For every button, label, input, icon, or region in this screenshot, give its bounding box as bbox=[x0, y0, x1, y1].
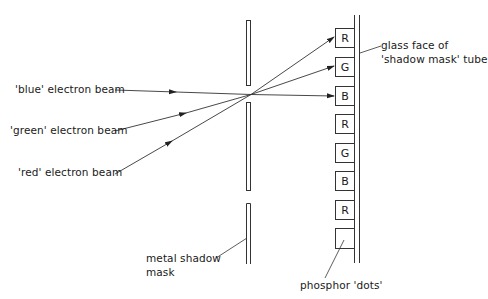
mask-bar-bottom bbox=[247, 204, 251, 265]
blue-beam-label: 'blue' electron beam bbox=[15, 83, 125, 96]
green-beam-label: 'green' electron beam bbox=[10, 124, 128, 137]
phosphor-letter: R bbox=[341, 32, 349, 45]
glass-leader bbox=[360, 46, 381, 53]
shadow-mask bbox=[247, 21, 251, 265]
phosphor-letter: B bbox=[341, 90, 349, 103]
phosphor-letter: G bbox=[341, 147, 350, 160]
red-beam-label: 'red' electron beam bbox=[18, 166, 122, 179]
glass-face-label-2: 'shadow mask' tube bbox=[381, 53, 488, 66]
leader-lines bbox=[216, 46, 381, 278]
phosphor-letter: B bbox=[341, 175, 349, 188]
phosphor-dot-empty bbox=[336, 229, 355, 249]
electron-beams bbox=[115, 37, 334, 174]
mask-bar-top bbox=[247, 21, 251, 86]
mask-label-2: mask bbox=[146, 266, 175, 279]
phosphor-label: phosphor 'dots' bbox=[300, 279, 383, 292]
green-beam-out bbox=[251, 66, 334, 95]
mask-bar-middle bbox=[247, 103, 251, 191]
phosphor-leader bbox=[325, 240, 344, 278]
phosphor-letter: R bbox=[341, 204, 349, 217]
glass-face-label-1: glass face of bbox=[381, 39, 448, 52]
red-beam-out bbox=[251, 37, 334, 95]
red-beam-in bbox=[115, 141, 172, 174]
glass-face bbox=[355, 15, 360, 263]
mask-label-1: metal shadow bbox=[146, 252, 221, 265]
phosphor-letter: R bbox=[341, 118, 349, 131]
phosphor-letter: G bbox=[341, 61, 350, 74]
blue-beam-out bbox=[251, 95, 334, 97]
